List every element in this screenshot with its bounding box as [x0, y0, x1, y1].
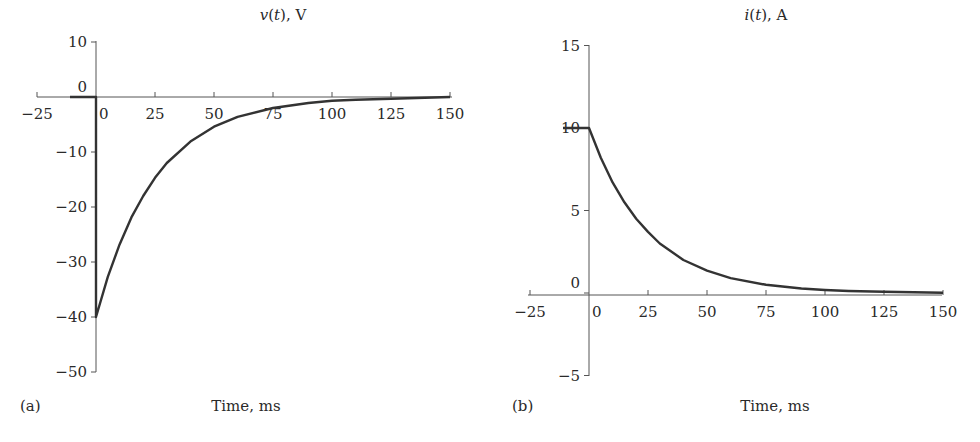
- x-tick-label: 25: [145, 105, 164, 123]
- y-tick-label: −30: [55, 253, 87, 271]
- x-tick-label: 125: [377, 105, 406, 123]
- chart-panel-b: i(t), A 151050−5 −250255075100125150 (b)…: [512, 6, 957, 415]
- x-tick-label: 100: [318, 105, 347, 123]
- chart-b-x-axis-label: Time, ms: [740, 397, 809, 415]
- x-tick-label: −25: [514, 303, 546, 321]
- chart-panel-a: v(t), V 100−10−20−30−40−50 −250255075100…: [20, 6, 464, 415]
- x-tick-label: 100: [811, 303, 840, 321]
- chart-a-title-unit: ), V: [280, 6, 307, 24]
- y-tick-label: −20: [55, 198, 87, 216]
- chart-a-panel-label: (a): [20, 397, 41, 415]
- x-tick-label: 150: [436, 105, 465, 123]
- chart-a-y-ticks: 100−10−20−30−40−50: [55, 33, 96, 381]
- x-tick-label: −25: [21, 105, 53, 123]
- y-tick-label: 5: [570, 202, 580, 220]
- x-tick-label: 0: [99, 105, 109, 123]
- y-tick-label: −10: [55, 143, 87, 161]
- x-tick-label: 150: [929, 303, 958, 321]
- y-tick-label: 0: [77, 78, 87, 96]
- chart-b-panel-label: (b): [512, 397, 533, 415]
- chart-b-current-curve: [563, 128, 943, 293]
- figure: v(t), V 100−10−20−30−40−50 −250255075100…: [0, 0, 980, 442]
- x-tick-label: 50: [697, 303, 716, 321]
- x-tick-label: 25: [638, 303, 657, 321]
- chart-a-voltage-curve: [70, 97, 450, 317]
- x-tick-label: 75: [756, 303, 775, 321]
- chart-a-title: v(t), V: [260, 6, 308, 24]
- y-tick-label: −50: [55, 363, 87, 381]
- y-tick-label: −5: [558, 367, 580, 385]
- y-tick-label: −40: [55, 308, 87, 326]
- y-tick-label: 0: [570, 274, 580, 292]
- y-tick-label: 10: [68, 33, 87, 51]
- x-tick-label: 50: [204, 105, 223, 123]
- x-tick-label: 0: [592, 303, 602, 321]
- y-tick-label: 15: [561, 37, 580, 55]
- chart-b-title-unit: ), A: [761, 6, 787, 24]
- x-tick-label: 125: [870, 303, 899, 321]
- chart-a-x-axis-label: Time, ms: [211, 397, 280, 415]
- chart-b-title: i(t), A: [745, 6, 788, 24]
- chart-b-y-ticks: 151050−5: [558, 37, 589, 385]
